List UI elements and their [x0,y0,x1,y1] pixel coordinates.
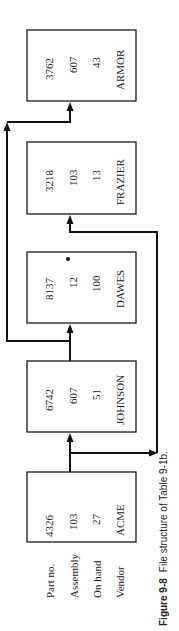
vendor-value: JOHNSON [114,375,126,425]
vendor-value: FRAZIER [114,159,126,206]
label-assembly: Assembly [68,554,80,599]
caption-label: Figure 9-8 [158,578,169,626]
part-no-value: 6742 [43,389,55,411]
marker-dot-icon [66,257,70,261]
part-no-value: 8137 [43,278,55,301]
file-structure-diagram: Part no. Assembly On hand Vendor 4326 10… [0,0,179,631]
record-frazier: 3218 103 13 FRAZIER [27,142,136,214]
on-hand-value: 27 [90,514,102,526]
part-no-value: 4326 [43,515,55,538]
on-hand-value: 51 [90,389,102,400]
assembly-value: 607 [67,56,79,73]
record-armor: 3762 607 43 ARMOR [27,30,136,101]
link-johnson [4,102,74,361]
figure-caption: Figure 9-8File structure of Table 9-1b. [158,451,169,626]
label-on-hand: On hand [91,560,103,598]
assembly-value: 607 [67,387,79,404]
record-johnson: 6742 607 51 JOHNSON [27,361,136,432]
arrow-up-icon [67,102,74,111]
vendor-value: ARMOR [114,49,126,90]
on-hand-value: 13 [90,170,102,182]
connector-johnson-rail [7,130,70,341]
caption-text: File structure of Table 9-1b. [158,451,169,572]
vendor-value: ACME [114,504,126,536]
assembly-value: 103 [67,513,79,530]
on-hand-value: 100 [90,275,102,292]
assembly-value: 12 [67,277,79,288]
on-hand-value: 43 [90,57,102,69]
arrow-up-icon [67,215,74,224]
part-no-value: 3762 [43,58,55,80]
record-dawes: 8137 12 100 DAWES [27,252,136,323]
arrow-up-icon [67,433,74,442]
assembly-value: 103 [67,169,79,186]
arrow-up-icon [4,122,11,131]
link-acme [67,215,159,472]
field-labels: Part no. Assembly On hand Vendor [44,554,126,599]
record-acme: 4326 103 27 ACME [27,472,136,542]
label-part-no: Part no. [44,564,56,598]
part-no-value: 3218 [43,170,55,193]
svg-text:Figure 9-8File structure of Ta: Figure 9-8File structure of Table 9-1b. [158,451,169,626]
vendor-value: DAWES [114,270,126,308]
connector-rail-armor [7,109,70,122]
label-vendor: Vendor [114,566,126,598]
arrow-up-icon [67,324,74,333]
